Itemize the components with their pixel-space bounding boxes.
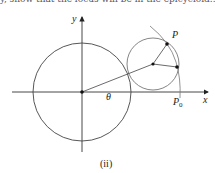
contact-point	[175, 65, 179, 69]
theta-label: θ	[106, 91, 111, 102]
rolling-center-point	[151, 62, 154, 65]
radius-to-p	[153, 44, 167, 64]
p0-label-sub: 0	[179, 101, 183, 109]
point-p	[165, 42, 169, 46]
radius-to-contact	[153, 64, 177, 67]
figure-caption: (ii)	[100, 158, 112, 170]
p0-label-main: P	[172, 96, 179, 107]
p0-label: P0	[172, 96, 183, 109]
epicycloid-diagram: y x θ P P0 (ii)	[0, 0, 215, 173]
x-axis-label: x	[202, 94, 208, 105]
origin-point	[80, 90, 84, 94]
y-axis-label: y	[71, 13, 77, 24]
p-label: P	[171, 29, 178, 40]
